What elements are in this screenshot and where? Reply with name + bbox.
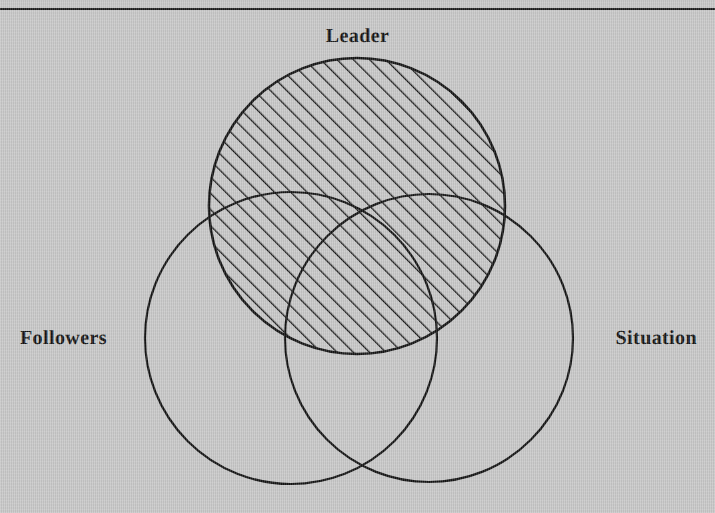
venn-diagram-svg (0, 0, 715, 513)
followers-label: Followers (20, 328, 107, 348)
figure-canvas: Leader Followers Situation (0, 0, 715, 513)
leader-label: Leader (0, 26, 715, 46)
situation-label: Situation (616, 328, 697, 348)
